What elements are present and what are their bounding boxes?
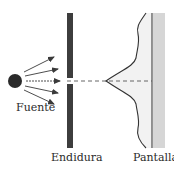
ray-arrow-icon — [25, 69, 58, 76]
slit-barrier-upper — [67, 13, 73, 78]
light-source-icon — [8, 74, 22, 88]
light-rays — [24, 57, 60, 104]
diffraction-diagram: Fuente Endidura Pantalla — [0, 0, 174, 172]
slit-label: Endidura — [51, 152, 103, 163]
source-label: Fuente — [16, 102, 55, 113]
slit-barrier-lower — [67, 84, 73, 148]
intensity-fill — [106, 13, 152, 148]
diagram-canvas — [0, 0, 174, 172]
screen-label: Pantalla — [133, 152, 174, 163]
ray-arrow-icon — [25, 86, 58, 93]
screen-surface — [153, 13, 165, 148]
ray-arrow-icon — [24, 57, 54, 72]
